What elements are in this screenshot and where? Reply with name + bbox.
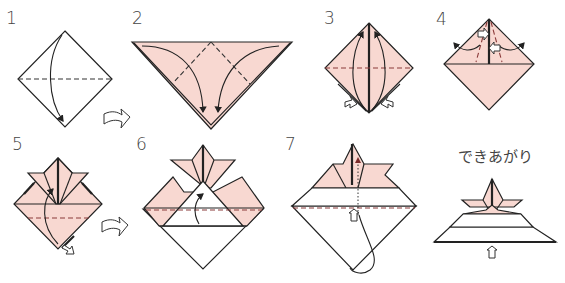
step-3-label: 3 [324,8,335,28]
push-arrow-icon [62,245,74,254]
step-7-label: 7 [285,134,296,154]
finished-label: できあがり [458,148,533,166]
step-3: 3 [324,8,413,113]
step-2: 2 [132,8,292,129]
step-1: 1 [6,8,112,127]
next-step-arrow-icon [104,109,130,128]
helmet-horns [312,144,399,188]
push-arrow-icon [487,246,497,258]
brim-band [434,227,556,242]
step-2-label: 2 [132,8,143,28]
step-5-label: 5 [12,134,23,154]
square-paper [18,31,112,127]
step-4-label: 4 [436,9,447,29]
brim-top [450,214,533,227]
origami-diagram: 1 2 3 4 [0,0,565,283]
step-4: 4 [436,9,534,110]
step-5: 5 [12,134,102,254]
step-1-label: 1 [6,8,17,28]
next-step-arrow-icon [102,217,128,236]
step-6-label: 6 [136,134,147,154]
triangle-paper [132,42,292,129]
step-6: 6 [136,134,264,269]
finished: できあがり [434,148,556,258]
step-7: 7 [285,134,416,273]
brim-band [292,188,416,206]
